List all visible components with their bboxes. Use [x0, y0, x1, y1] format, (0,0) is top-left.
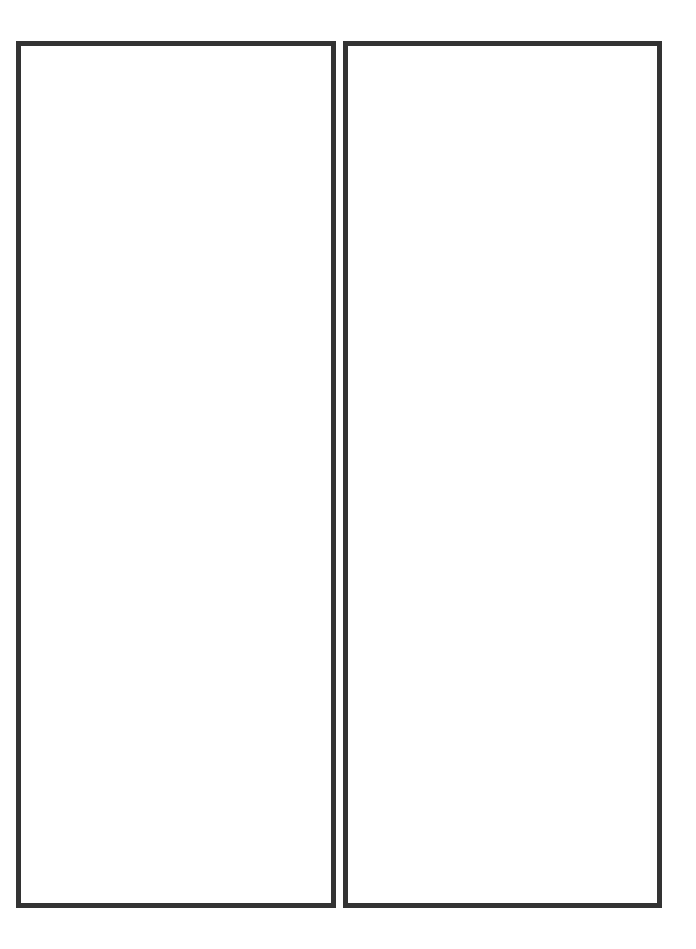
left-blank-panel	[16, 41, 336, 908]
right-blank-panel	[343, 41, 662, 908]
